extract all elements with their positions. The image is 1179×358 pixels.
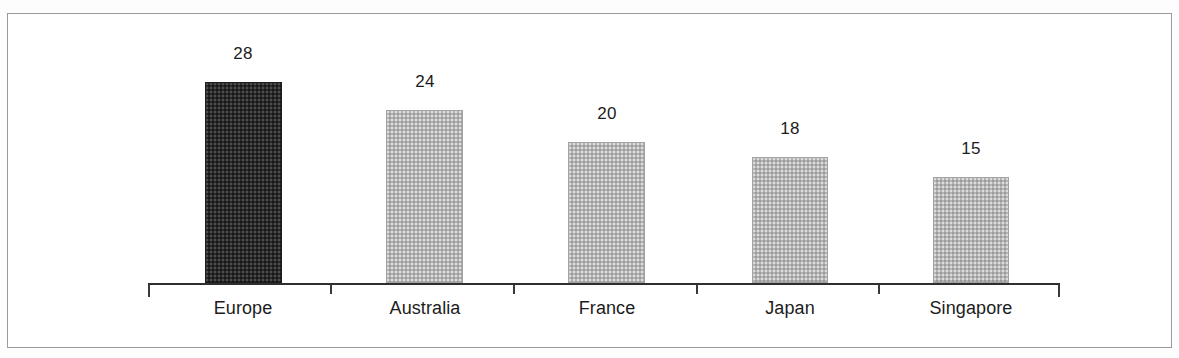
bar-value-label-france: 20 xyxy=(532,105,682,122)
bar-value-label-australia: 24 xyxy=(350,73,500,90)
axis-tick-1 xyxy=(330,285,332,294)
x-axis-line xyxy=(148,283,1060,285)
category-label-france: France xyxy=(532,299,682,317)
category-label-japan: Japan xyxy=(715,299,865,317)
bar-value-label-singapore: 15 xyxy=(896,140,1046,157)
axis-tick-3 xyxy=(696,285,698,294)
chart-plot-area: 28 Europe 24 Australia 20 France 18 Japa… xyxy=(0,0,1179,358)
chart-figure: 28 Europe 24 Australia 20 France 18 Japa… xyxy=(0,0,1179,358)
axis-tick-4 xyxy=(878,285,880,294)
bar-value-label-europe: 28 xyxy=(168,45,318,62)
category-label-australia: Australia xyxy=(350,299,500,317)
category-label-singapore: Singapore xyxy=(896,299,1046,317)
axis-tick-end xyxy=(1058,285,1060,297)
bar-europe xyxy=(205,82,282,283)
axis-tick-start xyxy=(148,285,150,297)
category-label-europe: Europe xyxy=(168,299,318,317)
axis-tick-2 xyxy=(513,285,515,294)
bar-france xyxy=(568,142,645,283)
bar-australia xyxy=(386,110,463,283)
bar-japan xyxy=(752,157,828,283)
bar-value-label-japan: 18 xyxy=(715,120,865,137)
bar-singapore xyxy=(933,177,1009,283)
